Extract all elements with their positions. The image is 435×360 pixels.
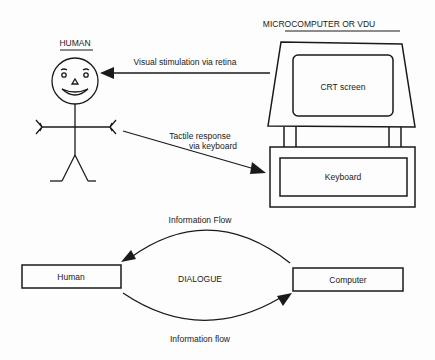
computer-title: MICROCOMPUTER OR VDU xyxy=(263,19,400,31)
svg-text:HUMAN: HUMAN xyxy=(59,38,90,48)
stick-figure-icon xyxy=(36,58,116,181)
human-title: HUMAN xyxy=(59,38,93,50)
computer-box: Computer xyxy=(293,268,403,291)
dialogue-label: DIALOGUE xyxy=(178,274,222,284)
svg-text:Computer: Computer xyxy=(329,275,366,285)
bottom-flow-label: Information flow xyxy=(170,334,231,344)
information-flow-arc-top xyxy=(121,230,290,263)
svg-text:Tactile response: Tactile response xyxy=(169,131,231,141)
diagram-svg: HUMAN MICROCOMPUTER OR VDU CRT scree xyxy=(0,0,435,360)
human-box: Human xyxy=(22,265,121,288)
svg-text:Visual stimulation via retina: Visual stimulation via retina xyxy=(134,57,237,67)
svg-text:via keyboard: via keyboard xyxy=(189,141,237,151)
information-flow-arc-bottom xyxy=(123,293,292,320)
svg-text:Human: Human xyxy=(57,272,85,282)
hci-diagram: HUMAN MICROCOMPUTER OR VDU CRT scree xyxy=(0,0,435,360)
keyboard-label: Keyboard xyxy=(325,172,362,182)
tactile-response-arrow: Tactile response via keyboard xyxy=(123,131,266,174)
crt-screen-label: CRT screen xyxy=(320,82,365,92)
svg-text:MICROCOMPUTER OR VDU: MICROCOMPUTER OR VDU xyxy=(263,19,375,29)
top-flow-label: Information Flow xyxy=(169,215,233,225)
visual-stimulation-arrow: Visual stimulation via retina xyxy=(100,57,270,79)
monitor-icon xyxy=(268,42,415,207)
